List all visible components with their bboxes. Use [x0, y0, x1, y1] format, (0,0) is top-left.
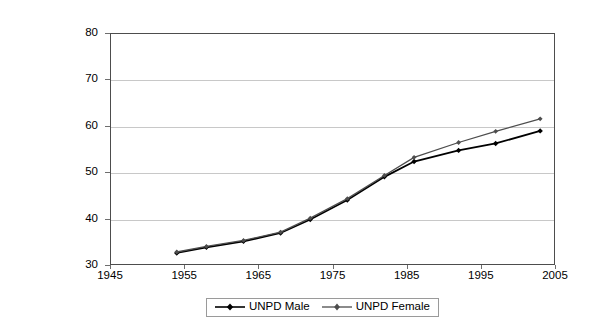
data-point-marker: [456, 140, 461, 145]
legend-line-marker-female-icon: [322, 302, 352, 312]
legend-label-male: UNPD Male: [249, 301, 310, 313]
legend-entry-female: UNPD Female: [322, 301, 430, 313]
series-line-unpd-female: [177, 119, 540, 252]
data-point-marker: [493, 129, 498, 134]
legend-label-female: UNPD Female: [356, 301, 430, 313]
legend-entry-male: UNPD Male: [215, 301, 310, 313]
series-layer: [0, 0, 598, 331]
data-point-marker: [456, 148, 461, 153]
data-point-marker: [538, 116, 543, 121]
legend-line-marker-male-icon: [215, 302, 245, 312]
data-point-marker: [537, 128, 542, 133]
data-point-marker: [493, 141, 498, 146]
chart-legend: UNPD Male UNPD Female: [206, 298, 439, 317]
line-chart: 80 70 60 50 40 30 1945 1955 1965 1975 19…: [0, 0, 598, 331]
